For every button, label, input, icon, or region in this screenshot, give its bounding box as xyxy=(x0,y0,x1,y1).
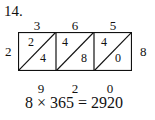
right-label: 8 xyxy=(140,44,147,60)
cell-ones-digit: 8 xyxy=(81,51,87,66)
cell-tens-digit: 2 xyxy=(28,35,34,50)
cell-ones-digit: 0 xyxy=(115,51,121,66)
cell-tens-digit: 4 xyxy=(62,35,68,50)
cell-ones-digit: 4 xyxy=(40,51,46,66)
multiplier-label: 2 xyxy=(5,44,12,60)
equation: 8 × 365 = 2920 xyxy=(25,94,123,112)
cell-tens-digit: 4 xyxy=(101,35,107,50)
